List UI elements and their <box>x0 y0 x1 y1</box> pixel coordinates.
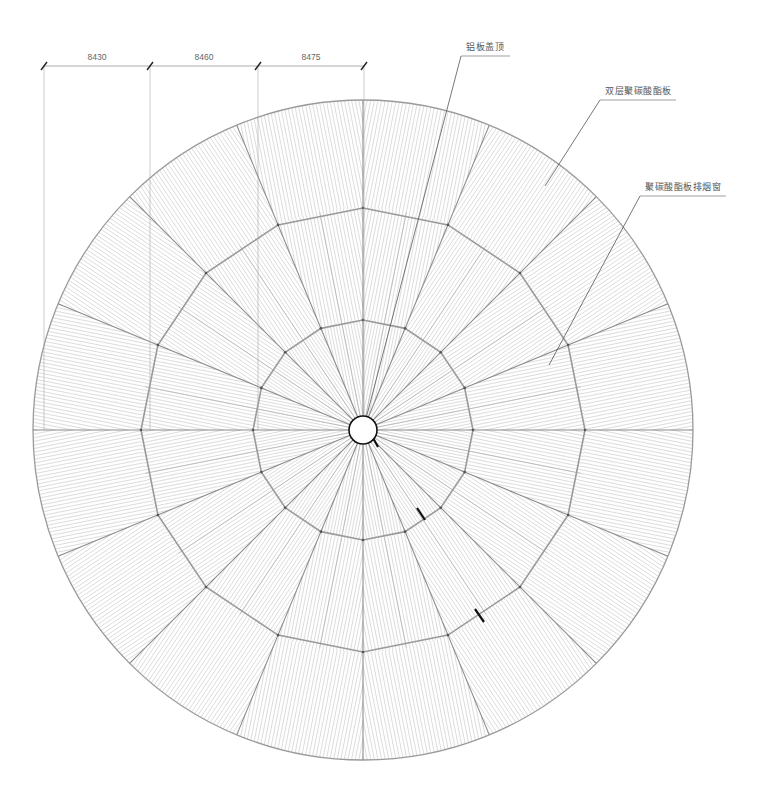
roof-plan-drawing <box>0 0 763 807</box>
center-hub-circle <box>349 416 377 444</box>
dimension-label-3: 8475 <box>302 52 321 62</box>
dimension-lines <box>41 62 367 430</box>
label-aluminum-cap: 铝板盖顶 <box>466 40 504 53</box>
dimension-label-2: 8460 <box>195 52 214 62</box>
dimension-label-1: 8430 <box>88 52 107 62</box>
label-polycarbonate-smoke-vent: 聚碳酸酯板排烟窗 <box>645 180 721 193</box>
label-double-polycarbonate: 双层聚碳酸酯板 <box>605 84 672 97</box>
